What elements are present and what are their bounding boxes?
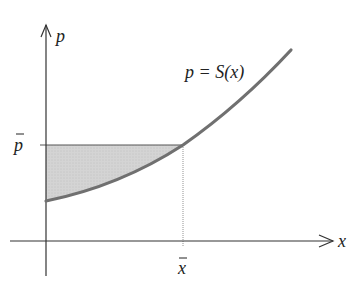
- producer-surplus-diagram: p x p = S(x) p x: [0, 0, 358, 284]
- y-axis-label: p: [54, 26, 65, 46]
- curve-label: p = S(x): [183, 62, 244, 83]
- p-bar-label: p: [12, 135, 23, 155]
- x-bar-label: x: [177, 258, 186, 278]
- shaded-surplus-region: [46, 145, 183, 201]
- x-axis-label: x: [337, 231, 346, 251]
